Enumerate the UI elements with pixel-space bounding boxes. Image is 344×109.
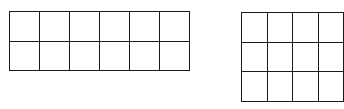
grid-cell: [100, 41, 130, 71]
grid-cell: [100, 12, 130, 42]
grid-row: [10, 41, 190, 71]
grid-cell: [10, 12, 40, 42]
grid-cell: [242, 13, 268, 43]
left-grid: [9, 11, 190, 71]
grid-cell: [10, 41, 40, 71]
grid-cell: [242, 72, 268, 102]
grid-cell: [293, 42, 319, 72]
grid-cell: [267, 72, 293, 102]
grid-cell: [318, 13, 344, 43]
grid-cell: [70, 12, 100, 42]
grid-cell: [130, 41, 160, 71]
grid-cell: [40, 12, 70, 42]
grid-cell: [267, 13, 293, 43]
grid-cell: [318, 42, 344, 72]
grid-cell: [130, 12, 160, 42]
grid-cell: [293, 72, 319, 102]
grid-cell: [242, 42, 268, 72]
grid-cell: [318, 72, 344, 102]
grid-cell: [267, 42, 293, 72]
grid-cell: [70, 41, 100, 71]
grid-cell: [160, 12, 190, 42]
grid-cell: [160, 41, 190, 71]
grid-cell: [293, 13, 319, 43]
grid-cell: [40, 41, 70, 71]
right-grid: [241, 12, 344, 102]
grid-row: [10, 12, 190, 42]
grid-row: [242, 13, 344, 43]
grid-row: [242, 72, 344, 102]
grid-row: [242, 42, 344, 72]
